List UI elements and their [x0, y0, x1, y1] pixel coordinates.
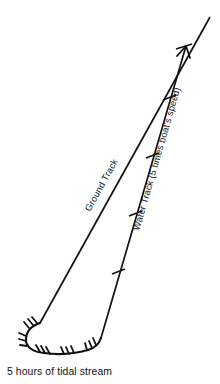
- tide-barb-marker-1: [24, 317, 37, 328]
- tidal-stream-chain-path: [26, 323, 101, 354]
- diagram-root: Ground Track Water Track (5 times boat's…: [0, 0, 220, 384]
- ground-track-group: [40, 17, 210, 323]
- tidal-stream-chain-group: [19, 317, 101, 354]
- vector-triangle-diagram: Ground Track Water Track (5 times boat's…: [0, 0, 220, 384]
- ground-track-label: Ground Track: [83, 157, 120, 213]
- water-track-label: Water Track (5 times boat's speed): [131, 86, 182, 232]
- tidal-stream-caption: 5 hours of tidal stream: [7, 366, 112, 377]
- ground-track-line: [40, 17, 210, 323]
- water-track-tick-1: [112, 269, 125, 274]
